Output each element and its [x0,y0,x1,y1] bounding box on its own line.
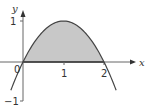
y-tick-label-1: 1 [10,16,16,27]
x-tick-label-1: 1 [61,68,67,79]
origin-label: 0 [14,64,20,75]
x-axis-label: x [139,57,145,68]
x-axis-arrow-icon [130,60,136,65]
y-axis-arrow-icon [21,10,26,17]
function-plot: y x 1 −1 0 1 2 [0,0,146,108]
y-axis-label: y [11,3,18,14]
y-tick-label-neg1: −1 [4,96,19,107]
x-tick-label-2: 2 [101,68,107,79]
